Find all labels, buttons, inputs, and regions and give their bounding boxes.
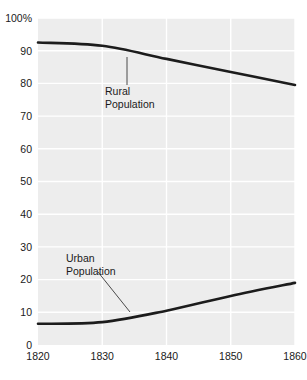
y-axis-tick-label-50: 50 (20, 175, 32, 187)
y-axis-tick-label-90: 90 (20, 45, 32, 57)
x-axis-tick-label-1830: 1830 (91, 350, 115, 362)
annotation-label-urban-line2: Population (66, 265, 116, 277)
y-axis-tick-label-30: 30 (20, 241, 32, 253)
chart-canvas: 0102030405060708090100%18201830184018501… (0, 0, 307, 380)
y-axis-tick-label-40: 40 (20, 208, 32, 220)
y-axis-tick-label-80: 80 (20, 77, 32, 89)
y-axis-tick-label-70: 70 (20, 110, 32, 122)
y-axis-tick-label-0: 0 (26, 339, 32, 351)
x-axis-tick-label-1820: 1820 (26, 350, 50, 362)
x-axis-tick-label-1860: 1860 (283, 350, 307, 362)
annotation-label-rural-line1: Rural (105, 85, 130, 97)
population-chart: 0102030405060708090100%18201830184018501… (0, 0, 307, 380)
x-axis-tick-label-1850: 1850 (219, 350, 243, 362)
y-axis-tick-label-100: 100% (5, 12, 32, 24)
x-axis-tick-label-1840: 1840 (155, 350, 179, 362)
annotation-label-rural-line2: Population (105, 98, 155, 110)
y-axis-tick-label-60: 60 (20, 143, 32, 155)
y-axis-tick-label-10: 10 (20, 306, 32, 318)
annotation-label-urban-line1: Urban (66, 252, 95, 264)
y-axis-tick-label-20: 20 (20, 273, 32, 285)
